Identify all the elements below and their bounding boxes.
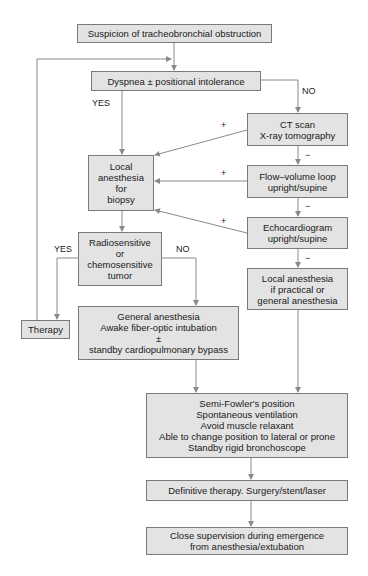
node-text: upright/supine — [268, 182, 328, 193]
node-semi-fowler: Semi-Fowler's position Spontaneous venti… — [146, 393, 348, 458]
node-text: anesthesia — [98, 172, 144, 183]
node-text: tumor — [108, 270, 132, 281]
node-text: Local — [110, 161, 133, 172]
node-text: X-ray tomography — [260, 130, 336, 141]
node-close-supervision: Close supervision during emergence from … — [146, 527, 348, 555]
edge-label-flow-minus: − — [305, 201, 310, 211]
node-text: Flow–volume loop — [259, 171, 336, 182]
node-definitive-therapy: Definitive therapy. Surgery/stent/laser — [146, 480, 348, 501]
edge-label-ct-minus: − — [305, 150, 310, 160]
node-text: for — [115, 183, 126, 194]
node-text: upright/supine — [268, 233, 328, 244]
edge-label-ct-plus: + — [221, 120, 226, 130]
node-text: Standby rigid bronchoscope — [188, 442, 306, 453]
node-text: Definitive therapy. Surgery/stent/laser — [168, 485, 326, 496]
node-text: from anesthesia/extubation — [190, 541, 304, 552]
node-text: Radiosensitive — [89, 237, 151, 248]
node-general-anesthesia: General anesthesia Awake fiber-optic int… — [78, 306, 239, 360]
node-text: Close supervision during emergence — [170, 530, 324, 541]
node-text: or — [116, 248, 124, 259]
node-text: CT scan — [280, 119, 315, 130]
node-text: Suspicion of tracheobronchial obstructio… — [88, 28, 262, 39]
node-text: Dyspnea ± positional intolerance — [107, 76, 244, 87]
edge-label-radio-no: NO — [176, 244, 190, 254]
edge-label-echo-minus: − — [305, 253, 310, 263]
node-therapy: Therapy — [21, 320, 70, 339]
edge-label-flow-plus: + — [221, 168, 226, 178]
node-text: standby cardiopulmonary bypass — [89, 344, 228, 355]
node-text: general anesthesia — [257, 295, 337, 306]
node-text: Local anesthesia — [262, 273, 333, 284]
node-echocardiogram: Echocardiogram upright/supine — [247, 217, 348, 249]
edge-label-dyspnea-yes: YES — [92, 98, 110, 108]
edge-label-radio-yes: YES — [54, 244, 72, 254]
node-text: ± — [156, 333, 161, 344]
node-text: General anesthesia — [117, 311, 199, 322]
node-text: if practical or — [271, 284, 325, 295]
node-text: biopsy — [107, 194, 134, 205]
node-text: Echocardiogram — [263, 222, 332, 233]
node-dyspnea: Dyspnea ± positional intolerance — [91, 71, 261, 91]
node-radiosensitive: Radiosensitive or chemosensitive tumor — [78, 232, 162, 286]
edge-label-dyspnea-no: NO — [302, 86, 316, 96]
node-text: Semi-Fowler's position — [199, 398, 294, 409]
node-text: chemosensitive — [87, 259, 152, 270]
node-local-anesthesia-biopsy: Local anesthesia for biopsy — [88, 155, 154, 211]
node-suspicion: Suspicion of tracheobronchial obstructio… — [77, 24, 272, 43]
node-ct-scan: CT scan X-ray tomography — [247, 113, 348, 146]
node-text: Spontaneous ventilation — [196, 409, 297, 420]
node-text: Able to change position to lateral or pr… — [159, 431, 335, 442]
node-text: Therapy — [28, 324, 63, 335]
node-local-anesthesia-practical: Local anesthesia if practical or general… — [247, 268, 348, 310]
node-text: Awake fiber-optic intubation — [100, 322, 217, 333]
edge-label-echo-plus: + — [221, 216, 226, 226]
node-text: Avoid muscle relaxant — [201, 420, 294, 431]
node-flow-volume: Flow–volume loop upright/supine — [247, 165, 348, 198]
